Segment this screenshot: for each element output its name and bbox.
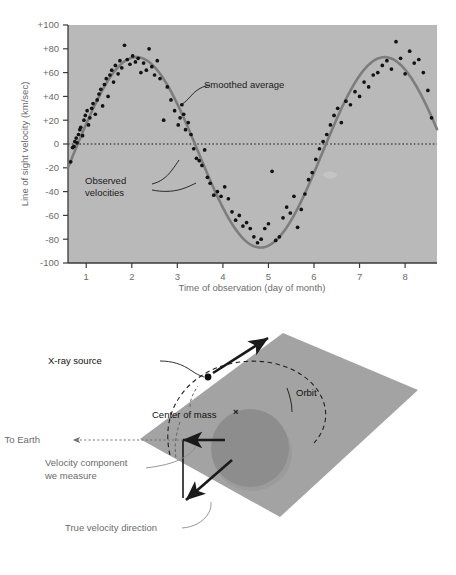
data-point	[97, 92, 101, 96]
data-point	[216, 190, 220, 194]
smoothed-average-label: Smoothed average	[204, 79, 284, 90]
data-point	[412, 61, 416, 65]
data-point	[349, 103, 353, 107]
data-point	[417, 58, 421, 62]
data-point	[318, 147, 322, 151]
data-point	[353, 90, 357, 94]
data-point	[184, 128, 188, 132]
data-point	[162, 118, 166, 122]
data-point	[292, 195, 296, 199]
data-point	[245, 221, 249, 225]
data-point	[82, 118, 86, 122]
data-point	[270, 170, 274, 174]
y-tick-label: +60	[43, 67, 59, 78]
y-tick-label: +100	[38, 19, 59, 30]
data-point	[128, 62, 132, 66]
data-point	[325, 133, 329, 137]
data-point	[120, 66, 124, 70]
data-point	[104, 77, 108, 81]
data-point	[72, 145, 76, 149]
data-point	[176, 123, 180, 127]
data-point	[136, 56, 140, 60]
data-point	[376, 71, 380, 75]
data-point	[153, 73, 157, 77]
data-point	[182, 112, 186, 116]
data-point	[75, 141, 79, 145]
x-tick-label: 2	[129, 271, 134, 282]
data-point	[329, 123, 333, 127]
data-point	[69, 160, 73, 164]
data-point	[189, 133, 193, 137]
data-point	[147, 47, 151, 51]
data-point	[263, 227, 267, 231]
data-point	[299, 208, 303, 212]
data-point	[380, 64, 384, 68]
observed-velocities-label-line2: velocities	[85, 187, 124, 198]
data-point	[241, 224, 245, 228]
center-of-mass-marker: ×	[233, 406, 239, 417]
data-point	[150, 65, 154, 69]
orbit-geometry-diagram: × X-ray source Orbit Center of mass To E…	[0, 300, 456, 575]
data-point	[142, 61, 146, 65]
x-ray-source-dot	[205, 374, 212, 381]
y-tick-label: 0	[54, 138, 59, 149]
data-point	[430, 116, 434, 120]
data-point	[88, 116, 92, 120]
scan-artifact	[323, 172, 337, 179]
data-point	[192, 147, 196, 151]
data-point	[200, 164, 204, 168]
data-point	[91, 102, 95, 106]
data-point	[248, 227, 252, 231]
velocity-component-label-line1: Velocity component	[45, 457, 128, 468]
x-tick-label: 6	[311, 271, 316, 282]
data-point	[237, 214, 241, 218]
data-point	[110, 68, 114, 72]
data-point	[307, 178, 311, 182]
data-point	[267, 222, 271, 226]
x-tick-label: 1	[84, 271, 89, 282]
y-tick-label: -60	[45, 210, 59, 221]
data-point	[85, 109, 89, 113]
y-tick-label: -80	[45, 234, 59, 245]
data-point	[118, 59, 122, 63]
data-point	[234, 218, 238, 222]
data-point	[274, 239, 278, 243]
data-point	[385, 59, 389, 63]
data-point	[426, 89, 430, 93]
data-point	[332, 114, 336, 118]
data-point	[87, 123, 91, 127]
data-point	[408, 49, 412, 53]
data-point	[203, 148, 207, 152]
data-point	[101, 104, 105, 108]
x-tick-label: 3	[175, 271, 180, 282]
data-point	[77, 133, 81, 137]
data-point	[303, 192, 307, 196]
velocity-component-label-line2: we measure	[44, 470, 97, 481]
data-point	[314, 158, 318, 162]
y-tick-label: +40	[43, 91, 59, 102]
data-point	[394, 40, 398, 44]
data-point	[145, 68, 149, 72]
y-tick-label: +80	[43, 43, 59, 54]
data-point	[178, 116, 182, 120]
velocity-curve-chart: +100+80+60+40+200-20-40-60-80-100 123456…	[0, 0, 456, 300]
y-tick-label: -40	[45, 186, 59, 197]
data-point	[158, 77, 162, 81]
data-point	[114, 64, 118, 68]
data-point	[155, 59, 159, 63]
y-tick-label: -20	[45, 162, 59, 173]
data-point	[212, 193, 216, 197]
x-axis-ticks: 12345678	[84, 263, 408, 282]
data-point	[108, 73, 112, 77]
data-point	[131, 54, 135, 58]
data-point	[230, 210, 234, 214]
y-tick-label: +20	[43, 115, 59, 126]
y-axis-ticks: +100+80+60+40+200-20-40-60-80-100	[38, 19, 68, 268]
data-point	[139, 71, 143, 75]
data-point	[223, 185, 227, 189]
data-point	[281, 216, 285, 220]
data-point	[278, 235, 282, 239]
x-ray-source-label: X-ray source	[48, 355, 102, 366]
figure-root: +100+80+60+40+200-20-40-60-80-100 123456…	[0, 0, 456, 575]
data-point	[288, 211, 292, 215]
